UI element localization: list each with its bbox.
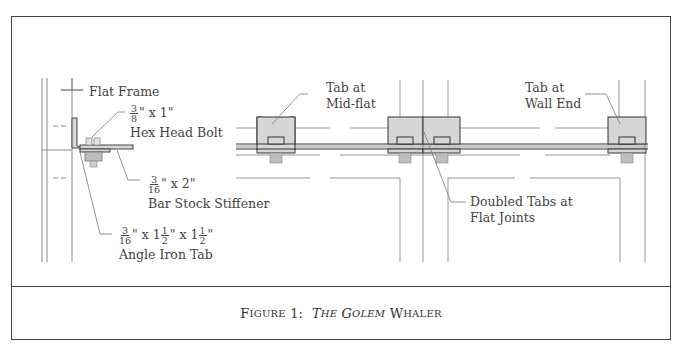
- tab-wall-end: [608, 117, 646, 163]
- label-tab-mid-flat-2: Mid-flat: [326, 96, 376, 111]
- label-flat-frame: Flat Frame: [89, 84, 159, 99]
- figure-caption: Figure 1: The Golem Whaler: [11, 287, 671, 339]
- doubled-tabs: [388, 117, 460, 163]
- label-angle-tab-size: 316" x 112" x 112": [119, 226, 213, 245]
- fraction: 38: [130, 104, 138, 123]
- tab-mid-flat: [257, 117, 295, 163]
- fraction: 316: [119, 226, 131, 245]
- label-doubled-tabs-1: Doubled Tabs at: [470, 194, 573, 209]
- whaler-diagram: [0, 0, 684, 286]
- label-bolt-size: 38" x 1": [130, 104, 174, 123]
- label-tab-wall-end-1: Tab at: [525, 80, 564, 95]
- fraction: 316: [148, 175, 160, 194]
- label-angle-tab-name: Angle Iron Tab: [119, 247, 213, 262]
- fraction: 12: [199, 226, 207, 245]
- label-stiffener-name: Bar Stock Stiffener: [148, 196, 270, 211]
- label-doubled-tabs-2: Flat Joints: [470, 210, 535, 225]
- label-tab-wall-end-2: Wall End: [525, 96, 581, 111]
- label-bolt-name: Hex Head Bolt: [130, 125, 223, 140]
- angle-iron-tab-side: [72, 118, 82, 148]
- label-stiffener-size: 316" x 2": [148, 175, 196, 194]
- label-tab-mid-flat-1: Tab at: [326, 80, 365, 95]
- fraction: 12: [161, 226, 169, 245]
